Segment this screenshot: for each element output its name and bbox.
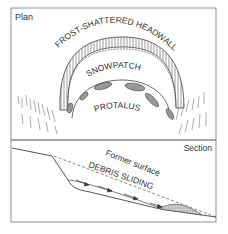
snowpatch-label: SNOWPATCH (84, 60, 142, 79)
plan-title: Plan (15, 12, 33, 22)
slope-hachures-left (18, 95, 57, 134)
protalus-label: PROTALUS (93, 100, 142, 114)
plan-panel (11, 8, 216, 140)
protalus-diagram: Plan FROST-SHATTERED HEADWALL SNOWPATC (0, 0, 228, 234)
plan-frame (11, 8, 216, 140)
section-title: Section (184, 143, 213, 153)
